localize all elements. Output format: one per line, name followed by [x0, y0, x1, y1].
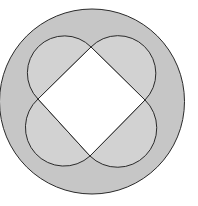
geometry-figure	[0, 0, 198, 206]
diagram-canvas	[0, 0, 198, 206]
